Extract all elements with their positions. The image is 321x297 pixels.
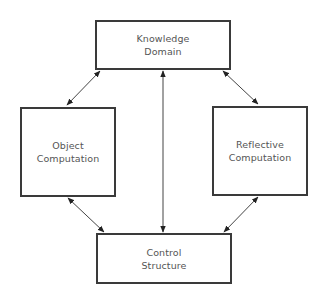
node-label-line: Computation	[37, 152, 100, 165]
node-object-computation: Object Computation	[20, 107, 116, 197]
edge-knowledge-reflective	[223, 71, 258, 104]
node-label-line: Structure	[141, 259, 186, 272]
node-knowledge-domain: Knowledge Domain	[95, 20, 231, 70]
edge-object-control	[68, 198, 104, 232]
node-control-structure: Control Structure	[96, 233, 232, 284]
node-label-line: Computation	[229, 151, 292, 164]
diagram-canvas: Knowledge Domain Object Computation Refl…	[0, 0, 321, 297]
edge-reflective-control	[224, 197, 258, 232]
node-label-line: Object	[52, 139, 84, 152]
node-label-line: Knowledge	[136, 32, 189, 45]
node-label-line: Domain	[144, 45, 181, 58]
edge-knowledge-object	[67, 71, 100, 105]
node-label-line: Reflective	[236, 138, 284, 151]
node-reflective-computation: Reflective Computation	[212, 106, 308, 196]
node-label-line: Control	[146, 246, 181, 259]
